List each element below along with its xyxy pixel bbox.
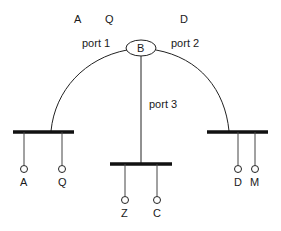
station-q-node bbox=[59, 166, 66, 173]
station-d-node bbox=[235, 166, 242, 173]
station-d-label: D bbox=[234, 176, 242, 188]
station-c-node bbox=[154, 197, 161, 204]
station-z-label: Z bbox=[121, 207, 128, 219]
port-2-label: port 2 bbox=[171, 37, 199, 49]
port-1-label: port 1 bbox=[82, 37, 110, 49]
top-label-q: Q bbox=[105, 13, 114, 25]
station-a-node bbox=[21, 166, 28, 173]
station-z-node bbox=[122, 197, 129, 204]
top-label-a: A bbox=[74, 13, 82, 25]
top-label-d: D bbox=[180, 13, 188, 25]
station-m-node bbox=[252, 166, 259, 173]
station-q-label: Q bbox=[58, 176, 67, 188]
port-3-label: port 3 bbox=[149, 98, 177, 110]
port-2-link bbox=[156, 50, 229, 131]
port-1-link bbox=[51, 50, 127, 131]
bridge-diagram: A Q D port 1 port 2 port 3 B A Q Z C D M bbox=[0, 0, 281, 231]
station-m-label: M bbox=[250, 176, 259, 188]
station-a-label: A bbox=[20, 176, 28, 188]
bridge-label: B bbox=[137, 42, 144, 54]
station-c-label: C bbox=[153, 207, 161, 219]
